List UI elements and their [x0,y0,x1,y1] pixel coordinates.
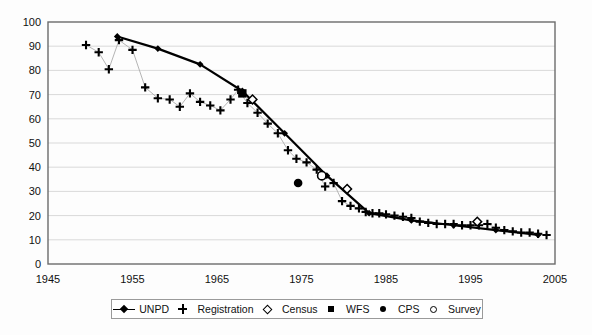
x-axis-tick-label: 1985 [374,273,398,285]
data-point-registration [509,227,517,235]
data-point-registration [176,103,184,111]
y-axis-tick-label: 80 [29,64,41,76]
data-point-registration [321,182,329,190]
data-point-registration [449,220,457,228]
data-point-registration [441,220,449,228]
filled-square-icon [320,303,342,315]
data-point-registration [338,197,346,205]
plus-icon [171,303,193,315]
data-point-cps [294,179,303,188]
data-point-registration [165,95,173,103]
series-line-unpd [117,37,538,235]
legend-item-wfs: WFS [320,303,369,315]
chart-plot-area: 0102030405060708090100194519551965197519… [0,0,592,335]
data-point-registration [458,221,466,229]
data-point-registration [416,217,424,225]
x-axis-tick-label: 2005 [543,273,567,285]
data-point-registration [534,230,542,238]
data-point-wfs [238,89,246,97]
filled-circle-icon [372,303,394,315]
open-circle-icon [422,303,444,315]
y-axis-tick-label: 70 [29,89,41,101]
data-point-registration [206,101,214,109]
data-point-registration [517,228,525,236]
chart-legend: UNPDRegistrationCensusWFSCPSSurvey [111,299,483,319]
legend-item-label: Census [282,303,318,315]
x-axis-tick-label: 1965 [205,273,229,285]
series-line-registration [86,40,547,235]
x-axis-tick-label: 1975 [289,273,313,285]
legend-item-label: WFS [346,303,369,315]
legend-item-label: Survey [448,303,481,315]
data-point-registration [424,219,432,227]
data-point-registration [525,228,533,236]
data-point-survey [318,171,326,179]
data-point-registration [483,220,491,228]
data-point-registration [95,48,103,56]
legend-item-registration: Registration [171,303,253,315]
line-diamond-icon [113,303,135,315]
data-point-registration [500,226,508,234]
x-axis-tick-label: 1945 [36,273,60,285]
data-point-registration [542,231,550,239]
legend-item-survey: Survey [422,303,481,315]
legend-item-cps: CPS [372,303,420,315]
x-axis-tick-label: 1955 [120,273,144,285]
y-axis-tick-label: 40 [29,161,41,173]
legend-item-label: Registration [197,303,253,315]
legend-item-census: Census [256,303,318,315]
y-axis-tick-label: 90 [29,40,41,52]
data-point-registration [128,46,136,54]
legend-item-label: CPS [398,303,420,315]
open-diamond-icon [256,303,278,315]
y-axis-tick-label: 20 [29,210,41,222]
chart-figure: 0102030405060708090100194519551965197519… [0,0,592,335]
legend-item-label: UNPD [139,303,169,315]
y-axis-tick-label: 50 [29,137,41,149]
y-axis-tick-label: 10 [29,234,41,246]
y-axis-tick-label: 100 [23,16,41,28]
data-point-registration [433,220,441,228]
legend-item-unpd: UNPD [113,303,169,315]
y-axis-tick-label: 30 [29,185,41,197]
y-axis-tick-label: 60 [29,113,41,125]
y-axis-tick-label: 0 [35,258,41,270]
data-point-registration [105,65,113,73]
x-axis-tick-label: 1995 [458,273,482,285]
data-point-registration [82,41,90,49]
data-point-registration [346,202,354,210]
